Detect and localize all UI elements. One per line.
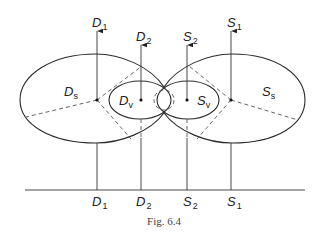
region-label-dv: Dv [119,93,133,110]
left-outer-ellipse [20,54,164,143]
bottom-label-s1: S1 [227,194,242,211]
right-outer-ellipse [164,54,305,143]
bottom-label-d1: D1 [92,194,107,211]
region-label-ds: Ds [64,84,78,101]
region-label-sv: Sv [197,93,211,110]
top-label-d2: D2 [136,29,151,46]
s2-center-dot [185,98,188,101]
s1-center-dot [229,98,232,101]
top-label-d1: D1 [92,15,107,32]
top-label-s2: S2 [183,29,198,46]
d2-center-dot [139,98,142,101]
top-label-s1: S1 [227,15,242,32]
figure-caption: Fig. 6.4 [147,215,181,227]
d1-center-dot [95,98,98,101]
region-label-ss: Ss [262,84,276,101]
diagram-canvas: D1 D2 S2 S1 Ds Dv Sv Ss D1 D2 S2 S1 Fig.… [0,0,322,234]
bottom-label-s2: S2 [183,194,198,211]
bottom-label-d2: D2 [136,194,151,211]
